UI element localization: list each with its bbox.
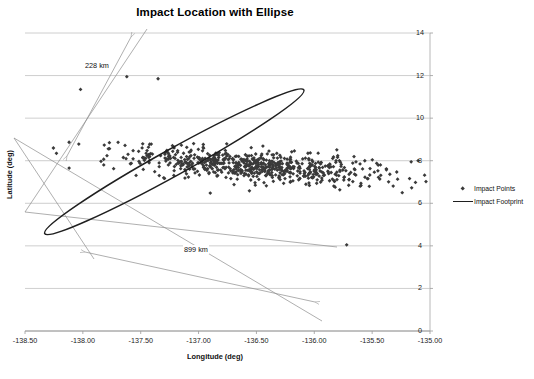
axis-frame bbox=[25, 33, 430, 331]
y-tick-label: 2 bbox=[412, 283, 428, 292]
legend-item-impact-points: Impact Points bbox=[452, 182, 534, 195]
y-tick-label: 12 bbox=[412, 71, 428, 80]
x-tick-label: -135.00 bbox=[400, 336, 460, 345]
x-tick-label: -138.00 bbox=[53, 336, 113, 345]
gridlines bbox=[25, 33, 430, 331]
y-tick-label: 14 bbox=[412, 28, 428, 37]
x-axis-title: Longitude (deg) bbox=[0, 352, 430, 361]
y-tick-label: 0 bbox=[412, 326, 428, 335]
diamond-marker-icon bbox=[452, 187, 474, 190]
line-swatch-icon bbox=[452, 201, 474, 203]
x-tick-label: -137.00 bbox=[169, 336, 229, 345]
x-tick-label: -136.50 bbox=[226, 336, 286, 345]
y-tick-label: 6 bbox=[412, 198, 428, 207]
y-tick-label: 10 bbox=[412, 113, 428, 122]
legend-item-impact-footprint: Impact Footprint bbox=[452, 195, 534, 208]
x-tick-label: -138.50 bbox=[0, 336, 55, 345]
x-tick-label: -135.50 bbox=[342, 336, 402, 345]
annotation-major-axis: 899 km bbox=[183, 245, 209, 254]
y-tick-label: 4 bbox=[412, 241, 428, 250]
legend-label-impact-footprint: Impact Footprint bbox=[474, 198, 523, 205]
x-tick-label: -137.50 bbox=[111, 336, 171, 345]
y-axis-title: Latitude (deg) bbox=[5, 140, 14, 210]
x-tick-label: -136.00 bbox=[284, 336, 344, 345]
dimension-lines bbox=[14, 29, 337, 321]
annotation-minor-axis: 228 km bbox=[84, 61, 110, 70]
chart-container: Impact Location with Ellipse bbox=[0, 0, 534, 379]
y-tick-label: 8 bbox=[412, 156, 428, 165]
legend-label-impact-points: Impact Points bbox=[474, 185, 515, 192]
chart-legend: Impact Points Impact Footprint bbox=[452, 182, 534, 208]
